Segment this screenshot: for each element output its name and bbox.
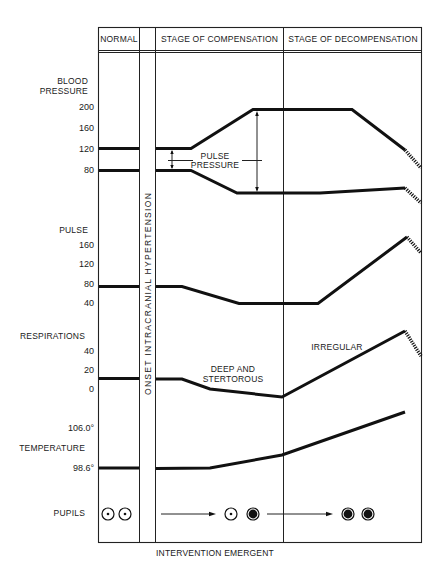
pulse-tick-40: 40 [84,298,94,308]
respirations-hatched-end [405,331,421,356]
pulse-hatched-end [407,237,421,253]
header-decompensation: STAGE OF DECOMPENSATION [288,34,417,44]
systolic-hatched-end [405,150,421,168]
header-compensation: STAGE OF COMPENSATION [161,34,278,44]
bp-title-line1: BLOOD [57,76,88,86]
pulse-pressure-small-arrow [168,150,193,169]
intracranial-hypertension-diagram: NORMAL STAGE OF COMPENSATION STAGE OF DE… [0,0,444,576]
respirations-line [156,331,405,397]
pupil-compensation-small-icon [225,508,237,520]
temp-tick-98-6: 98.6° [73,463,95,473]
pupil-progression-arrow-2 [267,512,333,516]
header-normal: NORMAL [100,34,138,44]
pulse-pressure-label-line2: PRESSURE [191,160,239,170]
pupil-compensation-dilated-icon [247,508,259,520]
bp-tick-160: 160 [79,123,94,133]
pupil-decompensation-left-icon [342,508,354,520]
irregular-label: IRREGULAR [311,342,362,352]
deep-stertorous-label-line2: STERTOROUS [203,374,264,384]
pupil-normal-left-icon [102,508,114,520]
respirations-title: RESPIRATIONS [20,331,85,341]
bp-tick-80: 80 [84,165,94,175]
bp-title-line2: PRESSURE [40,86,88,96]
pupil-decompensation-right-icon [362,508,374,520]
resp-tick-40: 40 [84,346,94,356]
diastolic-line [156,171,405,194]
temp-tick-106: 106.0° [68,423,95,433]
pulse-line [156,237,407,304]
temperature-title: TEMPERATURE [19,443,85,453]
pulse-pressure-large-arrow [242,111,262,192]
onset-intracranial-hypertension-label: ONSET INTRACRANIAL HYPERTENSION [143,192,153,395]
intervention-emergent-label: INTERVENTION EMERGENT [156,548,274,558]
pulse-tick-80: 80 [84,279,94,289]
diastolic-hatched-end [405,188,421,203]
pupil-progression-arrow-1 [161,512,216,516]
pupil-normal-right-icon [119,508,131,520]
pulse-tick-120: 120 [79,259,94,269]
pupils-title: PUPILS [54,508,86,518]
resp-tick-0: 0 [89,384,94,394]
resp-tick-20: 20 [84,365,94,375]
deep-stertorous-label-line1: DEEP AND [211,364,255,374]
temperature-line [156,412,405,469]
bp-tick-200: 200 [79,102,94,112]
systolic-line [156,110,405,151]
pulse-tick-160: 160 [79,240,94,250]
pulse-title: PULSE [59,225,88,235]
bp-tick-120: 120 [79,144,94,154]
